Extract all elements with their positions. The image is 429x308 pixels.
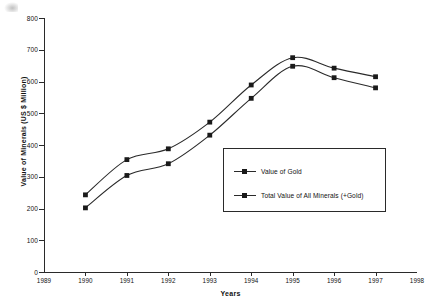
data-point-marker bbox=[83, 192, 88, 197]
legend-marker-icon bbox=[234, 167, 256, 176]
line-chart: 0100200300400500600700800 19891990199119… bbox=[0, 0, 429, 308]
data-point-marker bbox=[207, 133, 212, 138]
legend-marker-icon bbox=[234, 191, 256, 200]
data-point-marker bbox=[124, 173, 129, 178]
data-point-marker bbox=[166, 161, 171, 166]
data-point-marker bbox=[83, 205, 88, 210]
data-point-marker bbox=[249, 83, 254, 88]
data-point-marker bbox=[332, 75, 337, 80]
chart-legend: Value of Gold Total Value of All Mineral… bbox=[223, 148, 386, 212]
data-point-marker bbox=[290, 55, 295, 60]
data-point-marker bbox=[249, 96, 254, 101]
data-point-marker bbox=[124, 157, 129, 162]
legend-label: Total Value of All Minerals (+Gold) bbox=[261, 192, 364, 199]
legend-item-total-value-all-minerals[interactable]: Total Value of All Minerals (+Gold) bbox=[234, 189, 364, 201]
legend-item-value-of-gold[interactable]: Value of Gold bbox=[234, 165, 302, 177]
legend-label: Value of Gold bbox=[261, 168, 302, 175]
data-point-marker bbox=[166, 146, 171, 151]
data-point-marker bbox=[207, 120, 212, 125]
data-point-marker bbox=[290, 64, 295, 69]
data-point-marker bbox=[373, 74, 378, 79]
data-point-marker bbox=[373, 85, 378, 90]
data-point-marker bbox=[332, 66, 337, 71]
